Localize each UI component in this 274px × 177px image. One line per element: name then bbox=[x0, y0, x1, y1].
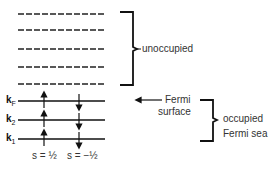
fermi-surface-label-2: surface bbox=[158, 106, 191, 118]
fermi-surface-label-1: Fermi bbox=[165, 94, 191, 106]
occupied-label-1: occupied bbox=[223, 113, 263, 125]
level-label-k1: k1 bbox=[6, 132, 15, 145]
brace-occupied bbox=[200, 100, 217, 141]
unoccupied-levels bbox=[18, 14, 105, 84]
spin-down-label: s = −½ bbox=[67, 150, 98, 162]
brace-unoccupied bbox=[120, 12, 137, 85]
occupied-label-2: Fermi sea bbox=[223, 128, 267, 140]
occupied-levels bbox=[18, 101, 105, 139]
spin-up-label: s = ½ bbox=[32, 150, 57, 162]
level-label-k2: k2 bbox=[6, 113, 15, 126]
level-label-kF: kF bbox=[6, 94, 16, 107]
unoccupied-label: unoccupied bbox=[142, 43, 193, 55]
